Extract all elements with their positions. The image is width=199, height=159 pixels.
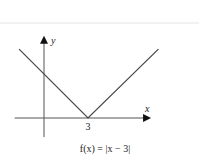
chart: 3 x y f(x) = |x − 3| <box>0 0 199 159</box>
x-tick-label: 3 <box>86 121 91 132</box>
y-axis-label: y <box>50 35 56 46</box>
y-axis-arrow-icon <box>40 36 48 44</box>
x-axis-arrow-icon <box>143 114 151 122</box>
x-axis-label: x <box>144 103 150 114</box>
series-line <box>19 49 158 118</box>
function-caption: f(x) = |x − 3| <box>80 143 130 155</box>
